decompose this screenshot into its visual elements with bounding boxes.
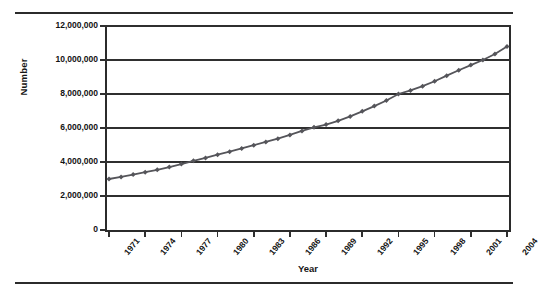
data-point-marker (324, 122, 329, 127)
x-tick-mark (361, 232, 363, 237)
x-tick-mark (470, 232, 472, 237)
x-tick-label: 1992 (375, 236, 395, 257)
series-polyline (109, 46, 507, 179)
x-tick-label: 1989 (339, 236, 359, 257)
data-point-marker (131, 172, 136, 177)
data-point-marker (348, 114, 353, 119)
x-tick-label: 2004 (520, 236, 540, 257)
x-tick-mark (434, 232, 436, 237)
data-point-marker (420, 84, 425, 89)
data-point-marker (299, 128, 304, 133)
data-point-marker (275, 136, 280, 141)
x-tick-mark (181, 232, 183, 237)
data-point-marker (107, 177, 112, 182)
x-tick-label: 1974 (158, 236, 178, 257)
x-tick-label: 1986 (303, 236, 323, 257)
x-tick-mark (108, 232, 110, 237)
x-tick-mark (506, 232, 508, 237)
x-tick-label: 1998 (447, 236, 467, 257)
data-point-marker (468, 63, 473, 68)
x-tick-mark (253, 232, 255, 237)
plot-area (105, 26, 511, 232)
data-series-line (105, 26, 511, 232)
data-point-marker (312, 125, 317, 130)
x-tick-label: 1983 (266, 236, 286, 257)
data-point-marker (143, 170, 148, 175)
data-point-marker (360, 109, 365, 114)
x-tick-label: 1995 (411, 236, 431, 257)
data-point-marker (203, 155, 208, 160)
x-tick-mark (398, 232, 400, 237)
x-tick-mark (325, 232, 327, 237)
x-tick-label: 1980 (230, 236, 250, 257)
x-tick-label: 1971 (122, 236, 142, 257)
data-point-marker (251, 143, 256, 148)
data-point-marker (179, 162, 184, 167)
x-tick-label: 2001 (484, 236, 504, 257)
data-point-marker (227, 149, 232, 154)
data-point-marker (263, 139, 268, 144)
data-point-marker (287, 132, 292, 137)
x-tick-label: 1977 (194, 236, 214, 257)
x-tick-mark (144, 232, 146, 237)
x-tick-mark (217, 232, 219, 237)
x-tick-mark (289, 232, 291, 237)
data-point-marker (239, 146, 244, 151)
data-point-marker (408, 88, 413, 93)
data-point-marker (191, 158, 196, 163)
data-point-marker (215, 152, 220, 157)
data-point-marker (155, 167, 160, 172)
data-point-marker (167, 165, 172, 170)
data-point-marker (119, 174, 124, 179)
data-point-marker (336, 118, 341, 123)
